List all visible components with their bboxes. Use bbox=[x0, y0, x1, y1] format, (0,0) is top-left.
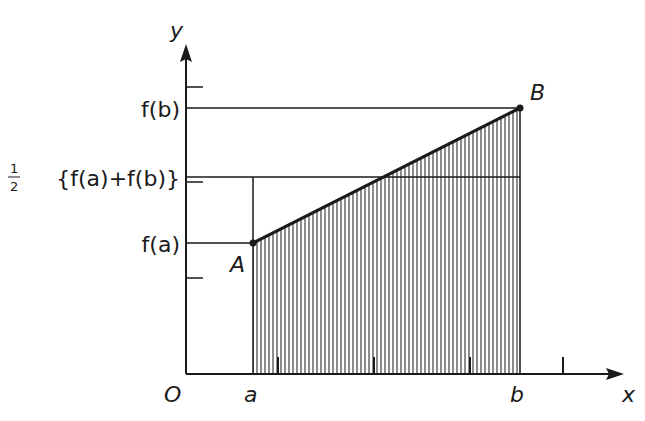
line-ab bbox=[253, 108, 520, 243]
y-label-fb: f(b) bbox=[141, 97, 180, 122]
origin-label: O bbox=[164, 382, 181, 407]
y-label-mid: {f(a)+f(b)} bbox=[56, 166, 180, 191]
y-label-fa: f(a) bbox=[142, 232, 180, 257]
x-axis-label: x bbox=[621, 382, 636, 407]
x-label-b: b bbox=[510, 382, 524, 407]
x-label-a: a bbox=[244, 382, 257, 407]
half-denominator: 2 bbox=[10, 179, 18, 194]
y-axis-ticks bbox=[186, 87, 203, 278]
trapezium-diagram: y x O a b f(b) f(a) 1 2 {f(a)+f(b)} A B bbox=[0, 0, 645, 421]
half-numerator: 1 bbox=[10, 161, 18, 176]
point-b-label: B bbox=[530, 80, 545, 105]
point-a-dot bbox=[250, 240, 257, 247]
point-b-dot bbox=[517, 105, 524, 112]
point-a-label: A bbox=[228, 252, 245, 277]
y-axis-label: y bbox=[169, 18, 184, 43]
hatched-area bbox=[253, 108, 517, 374]
